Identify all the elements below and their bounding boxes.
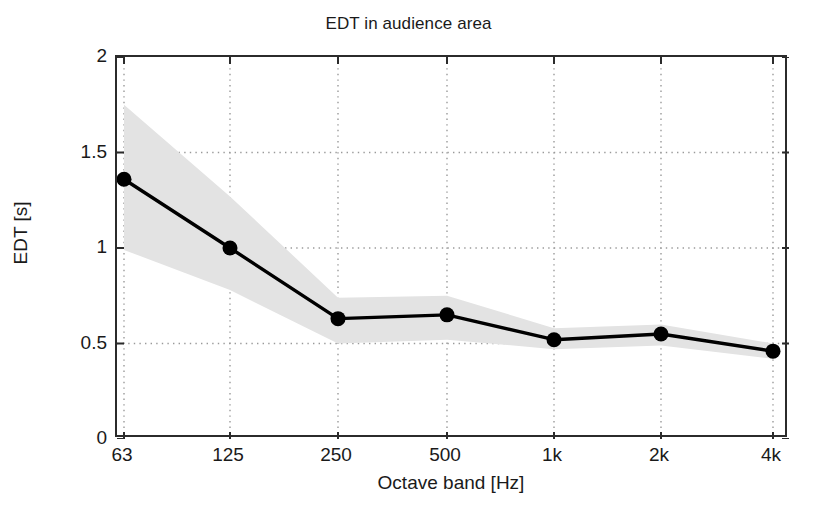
- data-point-4k: [766, 344, 781, 359]
- y-tick-label-1_5: 1.5: [59, 142, 107, 161]
- data-point-125: [223, 241, 238, 256]
- y-tick-label-2: 2: [59, 46, 107, 65]
- data-point-1k: [547, 332, 562, 347]
- data-point-250: [331, 311, 346, 326]
- x-tick-label-250: 250: [296, 444, 376, 466]
- data-point-2k: [654, 326, 669, 341]
- x-tick-label-2k: 2k: [619, 444, 699, 466]
- y-tick-label-1: 1: [59, 237, 107, 256]
- y-axis-label: EDT [s]: [10, 173, 32, 293]
- y-axis-tick-labels: 2 1.5 1 0.5 0: [47, 0, 107, 519]
- plot-svg: [117, 57, 789, 439]
- x-axis-label: Octave band [Hz]: [115, 472, 787, 494]
- x-tick-label-4k: 4k: [731, 444, 811, 466]
- x-tick-label-125: 125: [188, 444, 268, 466]
- chart-figure: EDT in audience area 2 1.5 1 0.5 0 EDT […: [0, 0, 817, 519]
- data-point-500: [440, 307, 455, 322]
- x-tick-label-63: 63: [82, 444, 162, 466]
- chart-title: EDT in audience area: [0, 14, 817, 34]
- x-tick-label-1k: 1k: [512, 444, 592, 466]
- y-tick-label-0_5: 0.5: [59, 333, 107, 352]
- data-point-63: [117, 172, 132, 187]
- x-tick-label-500: 500: [405, 444, 485, 466]
- plot-area: [115, 55, 787, 437]
